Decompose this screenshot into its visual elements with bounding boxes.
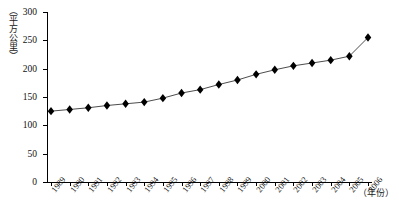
y-tick-label: 0: [32, 177, 37, 187]
y-tick-label: 150: [23, 92, 37, 102]
y-tick-label: 200: [23, 64, 37, 74]
data-point: [234, 76, 241, 84]
data-point: [290, 62, 297, 70]
data-point: [141, 98, 148, 106]
data-point: [104, 101, 111, 109]
data-point: [85, 104, 92, 112]
data-point: [216, 80, 223, 88]
data-point: [197, 85, 204, 93]
series-line: [51, 38, 368, 112]
data-point: [309, 59, 316, 67]
line-chart: （平方公里） 300250200150100500 19891990199119…: [0, 0, 399, 215]
data-point: [66, 105, 73, 113]
x-axis-label: （年份）: [358, 186, 394, 199]
data-point: [48, 107, 55, 115]
y-tick-label: 250: [23, 35, 37, 45]
data-point: [327, 56, 334, 64]
y-tick: 0: [43, 182, 47, 183]
data-point: [178, 89, 185, 97]
data-point: [253, 70, 260, 78]
data-point: [271, 66, 278, 74]
plot-area: 300250200150100500 198919901991199219931…: [47, 12, 372, 182]
y-axis-label: （平方公里）: [1, 6, 17, 60]
y-tick-label: 100: [23, 120, 37, 130]
series-graphic: [47, 12, 372, 182]
y-tick-label: 300: [23, 7, 37, 17]
series-markers: [48, 33, 372, 115]
data-point: [160, 94, 167, 102]
data-point: [122, 100, 129, 108]
y-tick-label: 50: [28, 149, 38, 159]
